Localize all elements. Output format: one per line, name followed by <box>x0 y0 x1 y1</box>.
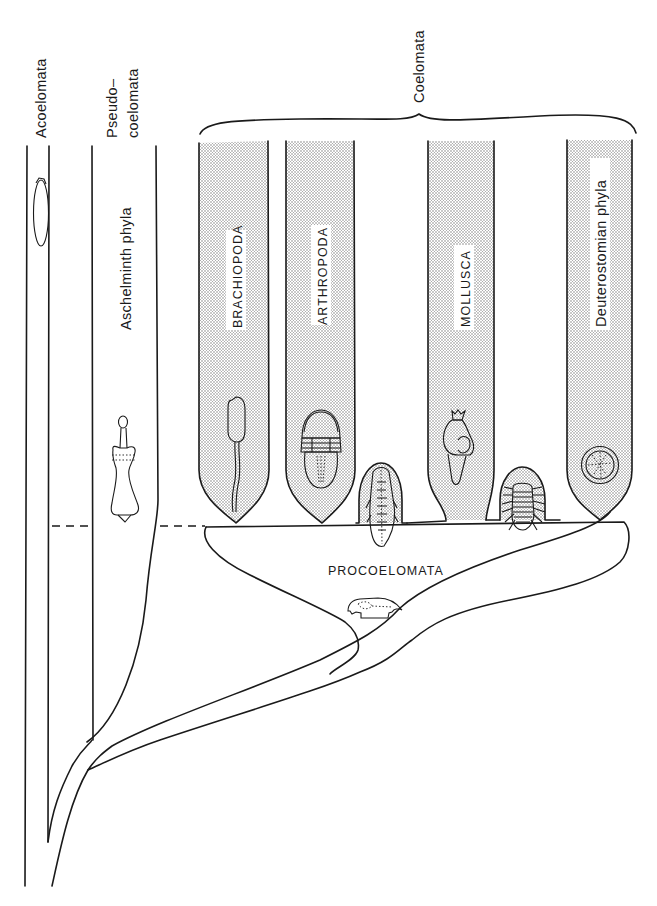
label-pseudocoelomata-line1: Pseudo– <box>104 78 120 138</box>
flatworm-icon <box>34 178 49 246</box>
label-acoelomata: Acoelomata <box>33 58 49 138</box>
phylogeny-diagram: Acoelomata Pseudo– coelomata Coelomata A… <box>0 0 657 906</box>
label-mollusca: MOLLUSCA <box>459 250 473 327</box>
column-deuterostomia: Deuterostomian phyla <box>567 140 632 520</box>
column-stub-annelid-left <box>356 463 407 546</box>
column-stub-annelid-right <box>500 467 560 530</box>
aschelminth-icon <box>111 416 138 522</box>
column-mollusca: MOLLUSCA <box>407 141 500 523</box>
label-coelomata: Coelomata <box>411 30 427 103</box>
label-brachiopoda: BRACHIOPODA <box>231 225 245 328</box>
label-pseudocoelomata-line2: coelomata <box>125 68 141 138</box>
label-arthropoda: ARTHROPODA <box>316 227 330 325</box>
main-trunk-outer <box>48 740 92 842</box>
label-aschelminth-phyla: Aschelminth phyla <box>118 207 134 330</box>
pseudocoelomata-line-left <box>92 146 93 740</box>
column-brachiopoda: BRACHIOPODA <box>199 141 269 523</box>
acoelomata-line-right <box>48 146 49 842</box>
acoelomata-line-left <box>25 146 27 886</box>
label-procoelomata-text: PROCOELOMATA <box>328 564 444 578</box>
coelomata-brace <box>200 114 636 134</box>
column-arthropoda: ARTHROPODA <box>286 141 355 523</box>
label-deuterostomian-phyla: Deuterostomian phyla <box>593 179 609 327</box>
